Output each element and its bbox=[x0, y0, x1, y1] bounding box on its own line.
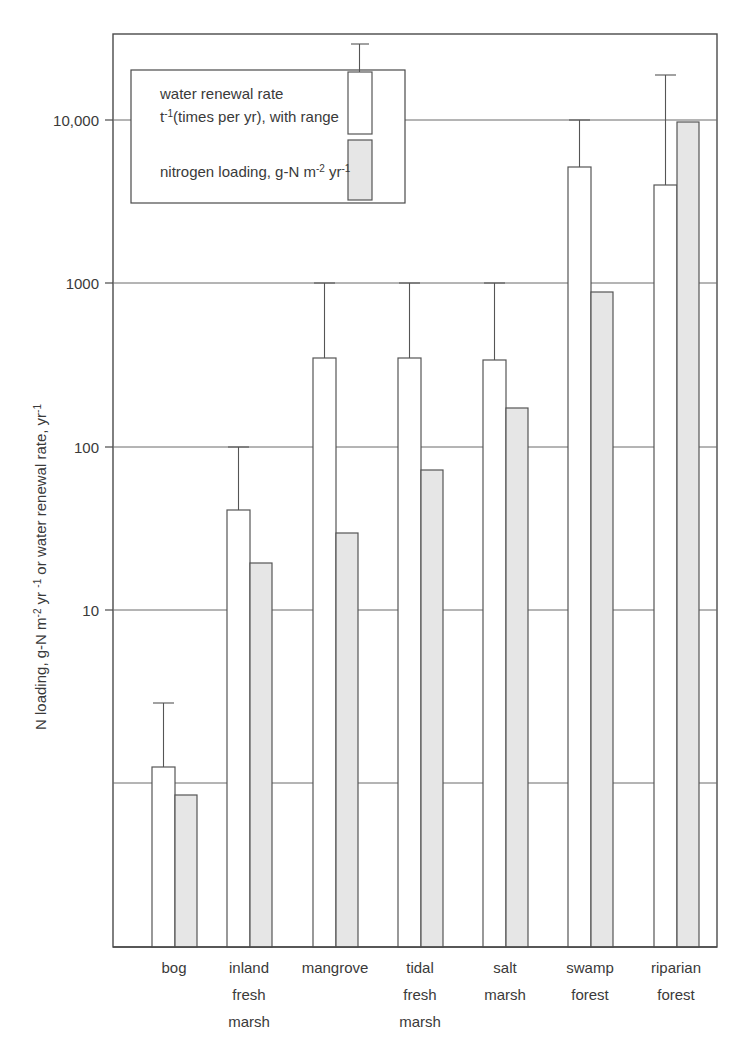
legend-nitrogen-part-1: nitrogen loading, g-N m bbox=[160, 163, 316, 180]
cat-label-salt-marsh-line2: marsh bbox=[484, 986, 526, 1003]
legend-nitrogen-sup-2: -1 bbox=[342, 163, 351, 174]
y-tick-label-10: 10 bbox=[82, 602, 99, 619]
bar-water-renewal-swamp-forest bbox=[568, 167, 591, 947]
y-tick-label-100: 100 bbox=[74, 439, 99, 456]
bar-water-renewal-inland-fresh-marsh bbox=[227, 510, 250, 947]
cat-label-salt-marsh-line1: salt bbox=[493, 959, 517, 976]
x-axis-labels: bog inland fresh marsh mangrove tidal fr… bbox=[161, 959, 701, 1030]
bar-nitrogen-loading-tidal-fresh-marsh bbox=[421, 470, 443, 947]
cat-label-tidal-fresh-marsh-line3: marsh bbox=[399, 1013, 441, 1030]
chart-svg: N loading, g-N m-2 yr -1 or water renewa… bbox=[0, 0, 744, 1039]
bar-nitrogen-loading-swamp-forest bbox=[591, 292, 613, 947]
bar-nitrogen-loading-mangrove bbox=[336, 533, 358, 947]
y-axis-title-sup-3: -1 bbox=[32, 404, 43, 413]
bar-nitrogen-loading-salt-marsh bbox=[506, 408, 528, 947]
legend-swatch-water-renewal-rate bbox=[348, 44, 372, 134]
bar-water-renewal-mangrove bbox=[313, 358, 336, 947]
bar-group-salt-marsh bbox=[483, 283, 528, 947]
y-tick-marks bbox=[105, 120, 113, 610]
y-axis-title-part-1: N loading, g-N m bbox=[32, 617, 49, 730]
bar-group-riparian-forest bbox=[654, 75, 699, 947]
bar-group-bog bbox=[152, 703, 197, 947]
bar-group-swamp-forest bbox=[568, 120, 613, 947]
bar-group-inland-fresh-marsh bbox=[227, 447, 272, 947]
legend-bar-gray bbox=[348, 140, 372, 200]
cat-label-inland-fresh-marsh-line3: marsh bbox=[228, 1013, 270, 1030]
bar-water-renewal-bog bbox=[152, 767, 175, 947]
cat-label-tidal-fresh-marsh-line2: fresh bbox=[403, 986, 436, 1003]
bar-water-renewal-salt-marsh bbox=[483, 360, 506, 947]
y-axis-title: N loading, g-N m-2 yr -1 or water renewa… bbox=[32, 404, 49, 730]
bar-group-mangrove bbox=[313, 283, 358, 947]
legend-nitrogen-part-2: yr bbox=[325, 163, 342, 180]
cat-label-mangrove-line1: mangrove bbox=[302, 959, 369, 976]
cat-label-riparian-forest-line1: riparian bbox=[651, 959, 701, 976]
cat-label-swamp-forest-line1: swamp bbox=[566, 959, 614, 976]
bar-nitrogen-loading-riparian-forest bbox=[677, 122, 699, 947]
cat-label-swamp-forest-line2: forest bbox=[571, 986, 609, 1003]
legend-times-per-yr: (times per yr), with range bbox=[173, 108, 339, 125]
y-tick-labels: 10,000 1000 100 10 bbox=[53, 112, 99, 619]
bar-nitrogen-loading-bog bbox=[175, 795, 197, 947]
chart-figure: N loading, g-N m-2 yr -1 or water renewa… bbox=[0, 0, 744, 1039]
cat-label-inland-fresh-marsh-line2: fresh bbox=[232, 986, 265, 1003]
legend: water renewal rate t-1(times per yr), wi… bbox=[131, 44, 405, 203]
legend-label-water-renewal-rate-line2: t-1(times per yr), with range bbox=[160, 108, 339, 125]
y-axis-title-part-3: or water renewal rate, yr bbox=[32, 413, 49, 579]
y-tick-label-10000: 10,000 bbox=[53, 112, 99, 129]
bar-group-tidal-fresh-marsh bbox=[398, 283, 443, 947]
cat-label-inland-fresh-marsh-line1: inland bbox=[229, 959, 269, 976]
legend-label-water-renewal-rate-line1: water renewal rate bbox=[159, 85, 283, 102]
bar-water-renewal-tidal-fresh-marsh bbox=[398, 358, 421, 947]
cat-label-riparian-forest-line2: forest bbox=[657, 986, 695, 1003]
y-tick-label-1000: 1000 bbox=[66, 275, 99, 292]
svg-text:N loading, g-N m-2 yr -1 or wa: N loading, g-N m-2 yr -1 or water renewa… bbox=[32, 404, 49, 730]
y-axis-title-part-2: yr bbox=[32, 588, 49, 609]
cat-label-tidal-fresh-marsh-line1: tidal bbox=[406, 959, 434, 976]
cat-label-bog-line1: bog bbox=[161, 959, 186, 976]
legend-swatch-nitrogen-loading bbox=[348, 140, 372, 200]
bar-nitrogen-loading-inland-fresh-marsh bbox=[250, 563, 272, 947]
legend-bar-white bbox=[348, 72, 372, 134]
bar-water-renewal-riparian-forest bbox=[654, 185, 677, 947]
